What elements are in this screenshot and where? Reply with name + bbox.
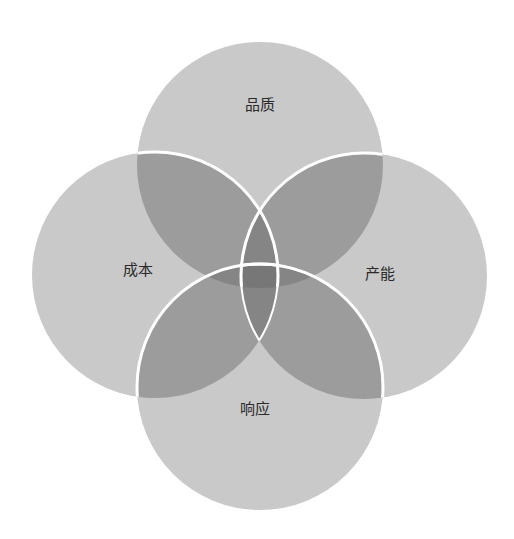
label-quality: 品质	[245, 93, 275, 114]
label-response: 响应	[240, 397, 270, 418]
venn-diagram	[0, 0, 514, 539]
label-capacity: 产能	[365, 262, 395, 283]
label-cost: 成本	[123, 258, 153, 279]
